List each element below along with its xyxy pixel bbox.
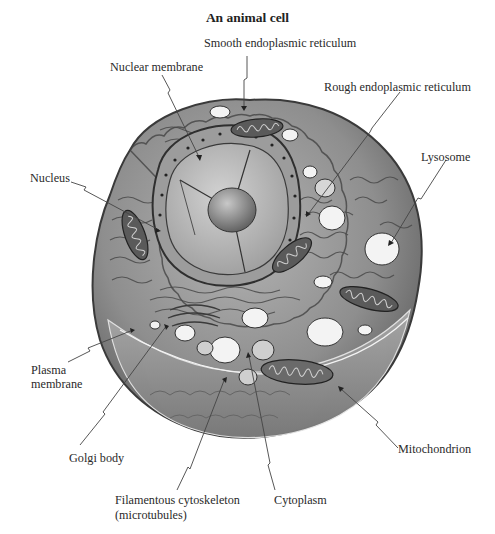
label-golgi-body: Golgi body (69, 451, 124, 465)
label-filamentous-line2: (microtubules) (115, 508, 187, 522)
label-nuclear-membrane: Nuclear membrane (110, 60, 203, 74)
label-smooth-er: Smooth endoplasmic reticulum (204, 36, 356, 50)
label-rough-er: Rough endoplasmic reticulum (324, 80, 471, 94)
label-cytoplasm: Cytoplasm (274, 493, 327, 507)
label-plasma-membrane-line2: membrane (31, 377, 82, 391)
label-filamentous-line1: Filamentous cytoskeleton (115, 493, 240, 507)
label-lysosome: Lysosome (421, 150, 470, 164)
label-plasma-membrane-line1: Plasma (31, 363, 66, 377)
label-nucleus: Nucleus (30, 171, 70, 185)
label-mitochondrion: Mitochondrion (398, 442, 471, 456)
